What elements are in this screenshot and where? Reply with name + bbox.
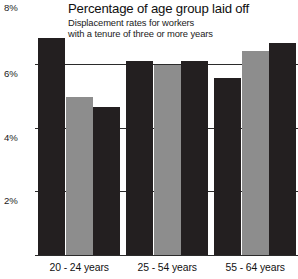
x-axis-category-label: 55 - 64 years <box>210 262 298 273</box>
bar <box>214 78 241 255</box>
x-axis-category-label: 25 - 54 years <box>122 262 212 273</box>
x-axis-labels: 20 - 24 years25 - 54 years55 - 64 years <box>35 258 298 278</box>
y-axis-tick-label: 2% <box>4 195 32 206</box>
bar <box>181 61 208 255</box>
x-axis-category-label: 20 - 24 years <box>34 262 124 273</box>
y-axis-tick-label: 8% <box>4 2 32 13</box>
y-axis-tick-label: 4% <box>4 132 32 143</box>
bar <box>154 65 181 255</box>
plot-area: 8%6%4%2% <box>35 0 298 255</box>
x-axis-baseline <box>35 255 298 256</box>
bar <box>242 51 269 255</box>
bar-chart: Percentage of age group laid off Displac… <box>0 0 298 279</box>
bar <box>38 38 65 255</box>
bar <box>269 43 296 255</box>
bar <box>93 107 120 255</box>
bar <box>66 97 93 255</box>
bar <box>126 61 153 255</box>
y-axis-tick-label: 6% <box>4 68 32 79</box>
